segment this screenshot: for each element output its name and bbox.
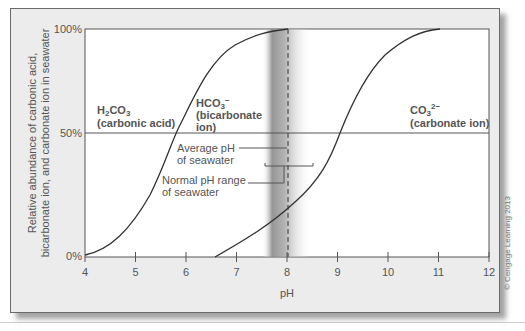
y-tick-0: 0% [66, 250, 82, 262]
x-tick-10: 10 [382, 266, 394, 278]
avg-ph-label-line1: Average pH [177, 142, 235, 154]
co3-label: (carbonate ion) [410, 117, 490, 129]
y-tick-50: 50% [60, 127, 82, 139]
range-label-line2: of seawater [162, 186, 219, 198]
range-label-line1: Normal pH range [162, 174, 246, 186]
y-axis-title-line2: bicarbonate ion, and carbonate ion in se… [39, 28, 51, 257]
x-tick-6: 6 [183, 266, 189, 278]
x-tick-5: 5 [132, 266, 138, 278]
x-tick-8: 8 [284, 266, 290, 278]
avg-ph-label-line2: of seawater [177, 154, 234, 166]
x-tick-11: 11 [433, 266, 444, 278]
x-axis-title: pH [280, 287, 294, 299]
x-tick-4: 4 [82, 266, 88, 278]
x-tick-7: 7 [233, 266, 239, 278]
hco3-label-line2: ion) [196, 121, 216, 133]
hco3-label-line1: (bicarbonate [196, 109, 262, 121]
h2co3-label: (carbonic acid) [97, 117, 176, 129]
h2co3-formula: H2CO3 [97, 104, 131, 118]
copyright-credit: © Cengage Learning 2013 [503, 196, 512, 290]
x-tick-12: 12 [483, 266, 495, 278]
chart-svg: 4 5 6 7 8 9 10 11 12 pH 100% 50% 0% Rela… [0, 0, 525, 331]
y-axis-title-line1: Relative abundance of carbonic acid, [26, 53, 38, 233]
y-tick-100: 100% [54, 23, 82, 35]
x-tick-9: 9 [334, 266, 340, 278]
